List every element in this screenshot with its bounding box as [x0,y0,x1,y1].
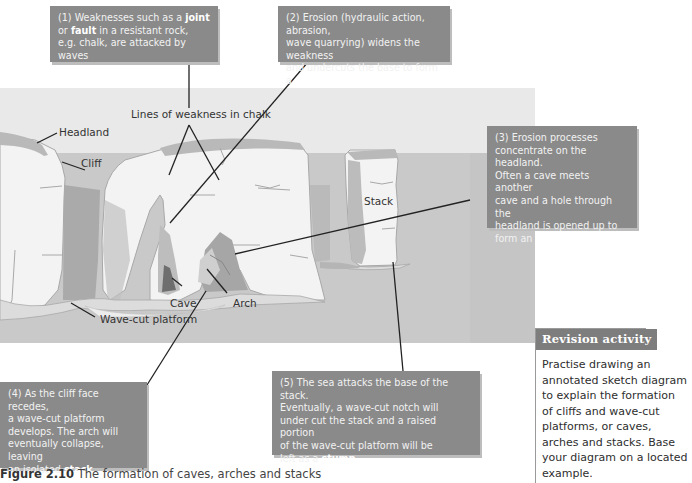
callout-1-weaknesses: (1) Weaknesses such as a jointor fault i… [50,6,218,62]
callout-keyword: arch [535,233,559,244]
revision-line: arches and stacks. Base [542,435,692,451]
callout-line: and undercuts the base to form a cave [286,62,442,87]
label-headland: Headland [59,126,109,138]
revision-line: your diagram on a located [542,450,692,466]
callout-text: (1) Weaknesses such as a [58,12,185,23]
callout-4-stack: (4) As the cliff face recedes,a wave-cut… [0,382,147,468]
callout-line: (4) As the cliff face recedes, [8,388,139,413]
callout-text: (3) Erosion processes [495,132,598,143]
callout-text: in a resistant rock, [96,25,188,36]
label-stack: Stack [364,195,393,207]
revision-activity-body: Practise drawing an annotated sketch dia… [542,357,692,481]
callout-line: Often a cave meets another [495,170,629,195]
callout-text: e.g. chalk, are attacked by waves [58,37,186,61]
callout-keyword: cave [295,75,320,86]
callout-line: form an arch [495,233,629,246]
callout-line: wave quarrying) widens the weakness [286,37,442,62]
revision-line: example. [542,466,692,482]
callout-line: develops. The arch will [8,426,139,439]
callout-line: a wave-cut platform [8,413,139,426]
revision-line: platforms, or caves, [542,419,692,435]
callout-line: of the wave-cut platform will be [280,440,472,453]
callout-text: headland is opened up to [495,220,617,231]
callout-line: (2) Erosion (hydraulic action, abrasion, [286,12,442,37]
callout-keyword: joint [185,12,210,23]
callout-text: cave and a hole through the [495,195,612,219]
callout-line: eventually collapse, leaving [8,438,139,463]
callout-text: (4) As the cliff face recedes, [8,388,99,412]
callout-text: wave quarrying) widens the weakness [286,37,420,61]
revision-activity-title: Revision activity [536,329,657,350]
callout-text: concentrate on the headland. [495,145,587,169]
callout-text: (5) The sea attacks the base of the stac… [280,377,448,401]
callout-line: left as a stump [280,453,472,466]
revision-line: to explain the formation [542,388,692,404]
revision-line: of cliffs and wave-cut [542,404,692,420]
revision-line: annotated sketch diagram [542,373,692,389]
callout-text: eventually collapse, leaving [8,438,104,462]
figure-number: Figure 2.10 [0,467,74,481]
callout-text: or [58,25,71,36]
label-cave: Cave [170,297,196,309]
callout-5-stump: (5) The sea attacks the base of the stac… [272,371,480,455]
label-arch: Arch [233,297,257,309]
label-lines-of-weakness: Lines of weakness in chalk [131,108,271,120]
callout-text: Eventually, a wave-cut notch will [280,402,438,413]
figure-caption-text: The formation of caves, arches and stack… [74,467,321,481]
callout-line: (1) Weaknesses such as a joint [58,12,210,25]
callout-line: (3) Erosion processes [495,132,629,145]
label-cliff: Cliff [81,157,101,169]
callout-text: of the wave-cut platform will be [280,440,433,451]
callout-line: Eventually, a wave-cut notch will [280,402,472,415]
callout-text: Often a cave meets another [495,170,589,194]
callout-text: a wave-cut platform [8,413,105,424]
callout-line: (5) The sea attacks the base of the stac… [280,377,472,402]
callout-keyword: fault [71,25,96,36]
callout-2-erosion-cave: (2) Erosion (hydraulic action, abrasion,… [278,6,450,62]
callout-text: develops. The arch will [8,426,118,437]
callout-line: headland is opened up to [495,220,629,233]
callout-line: concentrate on the headland. [495,145,629,170]
callout-text: left as a [280,453,321,464]
label-wave-cut-platform: Wave-cut platform [100,313,197,325]
revision-activity-box: Revision activity Practise drawing an an… [535,328,646,483]
callout-text: under cut the stack and a raised portion [280,415,436,439]
callout-text: (2) Erosion (hydraulic action, abrasion, [286,12,425,36]
callout-line: or fault in a resistant rock, [58,25,210,38]
revision-line: Practise drawing an [542,357,692,373]
callout-text: form an [495,233,535,244]
callout-line: e.g. chalk, are attacked by waves [58,37,210,62]
figure-caption: Figure 2.10 The formation of caves, arch… [0,467,321,481]
callout-line: under cut the stack and a raised portion [280,415,472,440]
callout-keyword: stump [321,453,355,464]
callout-line: cave and a hole through the [495,195,629,220]
callout-3-arch: (3) Erosion processesconcentrate on the … [487,126,637,228]
